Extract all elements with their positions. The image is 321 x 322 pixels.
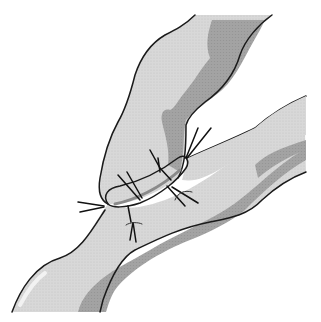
anastomosis-illustration <box>0 0 321 322</box>
suture-left <box>78 202 104 212</box>
